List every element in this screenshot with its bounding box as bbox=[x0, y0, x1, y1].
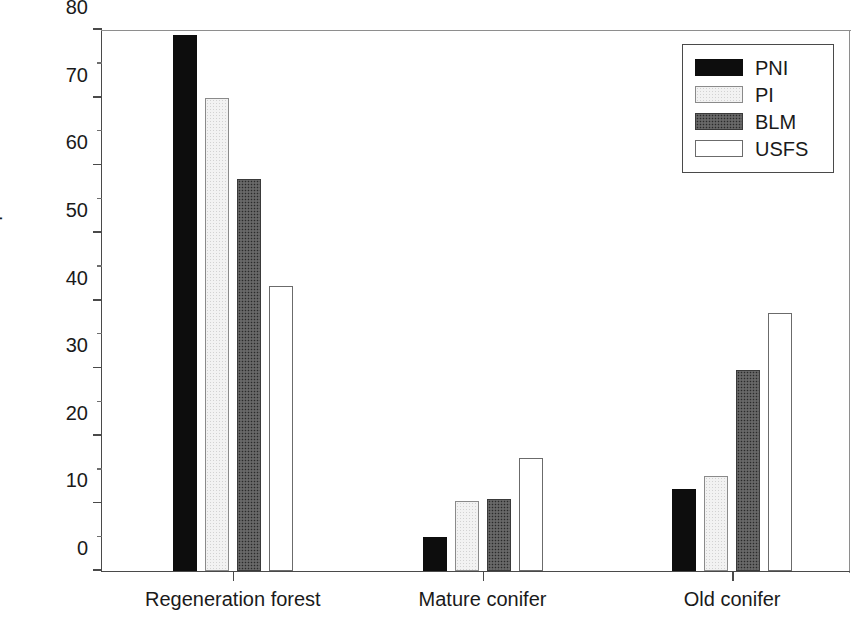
y-axis-title: Percent ownership bbox=[0, 0, 44, 623]
legend-swatch-pi-icon bbox=[695, 86, 743, 103]
legend-swatch-pni-icon bbox=[695, 59, 743, 76]
y-axis-tick-label: 30 bbox=[66, 334, 88, 357]
legend-label: BLM bbox=[755, 112, 796, 132]
y-axis-minor-tick bbox=[97, 401, 102, 402]
bar-usfs-mature-conifer bbox=[519, 458, 543, 571]
legend-swatch-blm-icon bbox=[695, 113, 743, 130]
y-axis-tick bbox=[93, 502, 102, 504]
y-axis-tick-label: 10 bbox=[66, 469, 88, 492]
y-axis-minor-tick bbox=[97, 468, 102, 469]
y-axis-tick-label: 50 bbox=[66, 198, 88, 221]
legend-label: USFS bbox=[755, 139, 808, 159]
y-axis-tick-label: 20 bbox=[66, 401, 88, 424]
x-axis-category-label: Mature conifer bbox=[419, 588, 547, 611]
y-axis-tick bbox=[93, 434, 102, 436]
y-axis-tick bbox=[93, 367, 102, 369]
chart-legend: PNIPIBLMUSFS bbox=[682, 44, 834, 173]
x-axis-category-label: Regeneration forest bbox=[145, 588, 321, 611]
bar-pni-old-conifer bbox=[672, 489, 696, 571]
y-axis-tick bbox=[93, 96, 102, 98]
y-axis-tick bbox=[93, 28, 102, 30]
x-axis-tick bbox=[483, 571, 485, 581]
y-axis-title-text: Percent ownership bbox=[0, 209, 3, 386]
legend-item-pni[interactable]: PNI bbox=[695, 54, 823, 81]
legend-item-blm[interactable]: BLM bbox=[695, 108, 823, 135]
x-axis-tick bbox=[233, 571, 235, 581]
y-axis-minor-tick bbox=[97, 130, 102, 131]
legend-label: PI bbox=[755, 85, 774, 105]
bar-pni-mature-conifer bbox=[423, 537, 447, 571]
bar-blm-old-conifer bbox=[736, 370, 760, 571]
bar-usfs-regeneration-forest bbox=[269, 286, 293, 571]
bar-usfs-old-conifer bbox=[768, 313, 792, 571]
y-axis-tick-label: 80 bbox=[66, 0, 88, 19]
bar-pi-regeneration-forest bbox=[205, 98, 229, 571]
bar-pni-regeneration-forest bbox=[173, 35, 197, 571]
bar-blm-mature-conifer bbox=[487, 499, 511, 571]
y-axis-minor-tick bbox=[97, 536, 102, 537]
y-axis-tick bbox=[93, 299, 102, 301]
y-axis-tick bbox=[93, 569, 102, 571]
y-axis-tick-label: 40 bbox=[66, 266, 88, 289]
legend-item-pi[interactable]: PI bbox=[695, 81, 823, 108]
y-axis-minor-tick bbox=[97, 198, 102, 199]
bar-blm-regeneration-forest bbox=[237, 179, 261, 571]
legend-swatch-usfs-icon bbox=[695, 140, 743, 157]
bar-pi-old-conifer bbox=[704, 476, 728, 571]
x-axis-tick bbox=[732, 571, 734, 581]
y-axis-tick-label: 60 bbox=[66, 131, 88, 154]
legend-label: PNI bbox=[755, 58, 788, 78]
y-axis-minor-tick bbox=[97, 333, 102, 334]
x-axis-category-label: Old conifer bbox=[684, 588, 781, 611]
bar-pi-mature-conifer bbox=[455, 501, 479, 571]
legend-item-usfs[interactable]: USFS bbox=[695, 135, 823, 162]
y-axis-tick bbox=[93, 164, 102, 166]
y-axis-minor-tick bbox=[97, 62, 102, 63]
bar-chart: Percent ownership 01020304050607080 Rege… bbox=[0, 0, 865, 623]
y-axis-minor-tick bbox=[97, 265, 102, 266]
y-axis-tick-label: 0 bbox=[77, 537, 88, 560]
y-axis-tick-label: 70 bbox=[66, 63, 88, 86]
y-axis-tick bbox=[93, 231, 102, 233]
